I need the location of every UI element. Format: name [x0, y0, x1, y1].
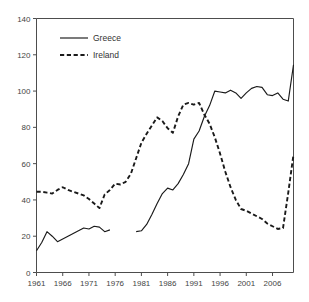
- series-line-greece: [37, 226, 110, 250]
- y-tick-label: 40: [22, 196, 31, 205]
- x-tick-label: 1986: [159, 279, 177, 288]
- y-tick-label: 20: [22, 232, 31, 241]
- x-tick-label: 1991: [185, 279, 203, 288]
- y-tick-label: 80: [22, 123, 31, 132]
- y-tick-label: 0: [26, 269, 31, 278]
- chart-canvas: 0204060801001201401961196619711976198119…: [0, 0, 309, 302]
- x-tick-label: 1981: [132, 279, 150, 288]
- y-tick-label: 140: [17, 15, 31, 24]
- y-tick-label: 60: [22, 160, 31, 169]
- series-line-greece: [136, 65, 293, 232]
- legend-label-ireland: Ireland: [93, 50, 119, 60]
- x-tick-label: 1976: [106, 279, 124, 288]
- series-line-ireland: [37, 103, 294, 229]
- line-chart: 0204060801001201401961196619711976198119…: [0, 0, 309, 302]
- x-tick-label: 2001: [237, 279, 255, 288]
- x-tick-label: 2006: [264, 279, 282, 288]
- x-tick-label: 1996: [211, 279, 229, 288]
- x-tick-label: 1961: [28, 279, 46, 288]
- y-tick-label: 100: [17, 87, 31, 96]
- legend-label-greece: Greece: [93, 33, 121, 43]
- x-tick-label: 1971: [80, 279, 98, 288]
- y-tick-label: 120: [17, 51, 31, 60]
- x-tick-label: 1966: [54, 279, 72, 288]
